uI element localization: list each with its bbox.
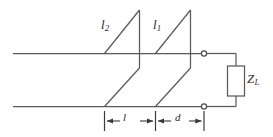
upper-terminal-circle [201, 51, 206, 56]
dimension-d-label: d [175, 112, 181, 123]
load-impedance-label: ZL [247, 72, 259, 85]
load-impedance-box [228, 66, 245, 96]
stub-2-label: l2 [101, 18, 109, 31]
stub-2-lower-diagonal [105, 68, 140, 107]
stub-2-upper-diagonal [105, 10, 140, 54]
stub-1-label: l1 [153, 18, 161, 31]
stub-1-lower-diagonal [156, 68, 191, 107]
transmission-line-figure: l2 l1 ZL l d [0, 0, 273, 137]
load-impedance-subscript: L [254, 77, 259, 87]
stub-1-subscript: 1 [157, 23, 161, 33]
lower-terminal-circle [201, 104, 206, 109]
dimension-l-label: l [123, 112, 126, 123]
stub-2-subscript: 2 [105, 23, 109, 33]
schematic-canvas [0, 0, 273, 137]
